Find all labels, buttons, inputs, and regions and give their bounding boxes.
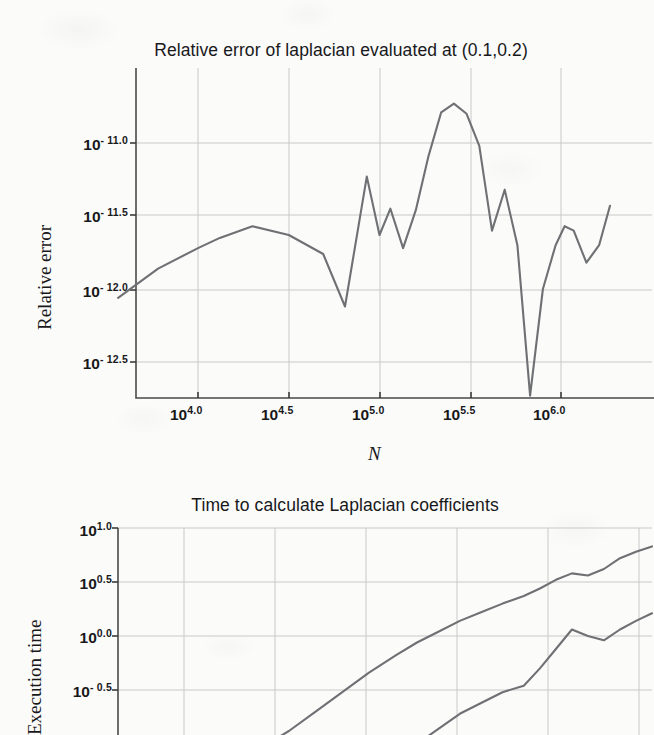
data-series-relative-error xyxy=(118,104,610,396)
gridlines-horizontal xyxy=(136,143,652,362)
plot-area-execution-time xyxy=(0,480,654,735)
data-series-upper xyxy=(118,546,652,735)
figure-relative-error: Relative error of laplacian evaluated at… xyxy=(0,0,654,480)
figure-execution-time: Time to calculate Laplacian coefficients… xyxy=(0,480,654,735)
axis-lines xyxy=(136,68,654,398)
gridlines-horizontal xyxy=(118,528,652,690)
plot-area-relative-error xyxy=(0,0,654,480)
tick-marks xyxy=(112,528,118,690)
tick-marks xyxy=(130,143,561,398)
data-series-middle xyxy=(214,613,652,735)
